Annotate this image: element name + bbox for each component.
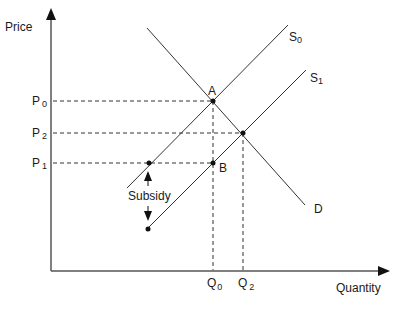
p2-label: P2 — [32, 126, 47, 141]
subsidy-diagram: Price Quantity P0 P2 P1 Q0 Q2 S0 S1 D A … — [0, 0, 417, 313]
subsidy-label: Subsidy — [128, 189, 171, 203]
demand-label: D — [314, 202, 323, 216]
arrow-down-icon — [144, 211, 152, 221]
point-b-label: B — [219, 161, 227, 175]
q2-label: Q2 — [238, 276, 254, 292]
point-new-equilibrium — [241, 131, 246, 136]
supply-curve-s1 — [147, 70, 306, 229]
point-s1-low — [146, 227, 151, 232]
p1-label: P1 — [32, 156, 47, 171]
p0-label: P0 — [32, 94, 47, 109]
q0-label: Q0 — [207, 276, 222, 292]
x-axis-label: Quantity — [336, 281, 381, 295]
point-a-label: A — [208, 84, 216, 98]
arrow-up-icon — [144, 171, 152, 181]
s0-label: S0 — [289, 30, 302, 45]
demand-curve — [147, 28, 305, 205]
point-a — [211, 99, 216, 104]
point-b — [211, 161, 216, 166]
x-axis-arrow-icon — [378, 266, 390, 276]
y-axis-label: Price — [5, 20, 33, 34]
y-axis-arrow-icon — [46, 8, 56, 20]
s1-label: S1 — [310, 71, 323, 86]
point-s0-at-p1 — [147, 161, 152, 166]
